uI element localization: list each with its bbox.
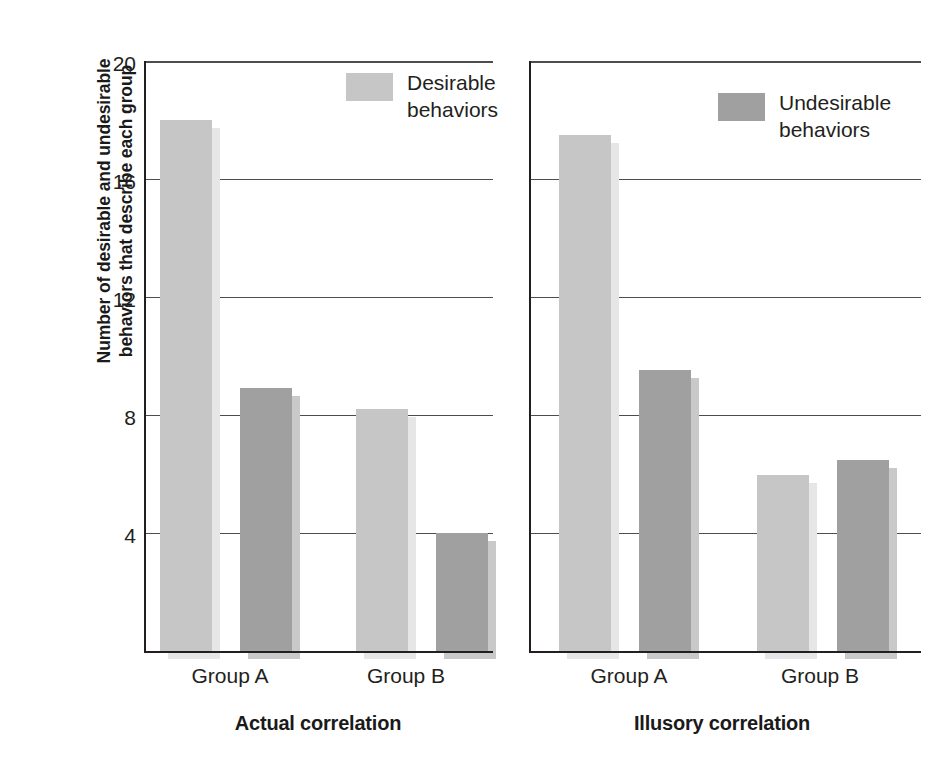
plot-area-right: [529, 61, 921, 653]
bar-face: [639, 370, 691, 651]
legend-desirable: Desirable behaviors: [346, 70, 498, 123]
y-tick-12: 12: [113, 289, 136, 310]
x-axis-line-right: [529, 651, 921, 653]
x-label-left-groupB: Group B: [367, 664, 445, 688]
x-label-right-groupB: Group B: [781, 664, 859, 688]
y-tick-16: 16: [113, 171, 136, 192]
bar-face: [356, 409, 408, 651]
bar-right-groupB-desirable: [757, 475, 809, 651]
x-label-left-groupA: Group A: [191, 664, 268, 688]
bar-right-groupA-undesirable: [639, 370, 691, 651]
legend-label-desirable: Desirable behaviors: [407, 70, 498, 123]
chart-figure: Number of desirable and undesirable beha…: [0, 0, 928, 779]
panel-title-actual-correlation: Actual correlation: [235, 712, 401, 735]
bar-right-groupB-undesirable: [837, 460, 889, 651]
y-axis-tick-labels: 20 16 12 8 4: [84, 0, 136, 779]
y-tick-4: 4: [124, 525, 136, 546]
gridline-20-left: [144, 61, 493, 63]
bar-left-groupB-desirable: [356, 409, 408, 651]
panel-actual-correlation: [144, 61, 493, 653]
plot-area-left: [144, 61, 493, 653]
bar-face: [436, 533, 488, 651]
legend-swatch-desirable-icon: [346, 73, 393, 101]
bar-face: [757, 475, 809, 651]
bar-face: [160, 120, 212, 651]
y-axis-line-right: [529, 61, 531, 653]
x-axis-line-left: [144, 651, 493, 653]
panel-illusory-correlation: [529, 61, 921, 653]
y-tick-8: 8: [124, 407, 136, 428]
legend-undesirable: Undesirable behaviors: [718, 90, 891, 143]
gridline-20-right: [529, 61, 921, 63]
y-axis-line-left: [144, 61, 146, 653]
bar-left-groupA-desirable: [160, 120, 212, 651]
legend-swatch-undesirable-icon: [718, 93, 765, 121]
bar-left-groupB-undesirable: [436, 533, 488, 651]
bar-face: [240, 388, 292, 651]
y-tick-20: 20: [113, 53, 136, 74]
x-label-right-groupA: Group A: [590, 664, 667, 688]
bar-face: [837, 460, 889, 651]
legend-label-undesirable: Undesirable behaviors: [779, 90, 891, 143]
panel-title-illusory-correlation: Illusory correlation: [634, 712, 810, 735]
bar-left-groupA-undesirable: [240, 388, 292, 651]
bar-face: [559, 135, 611, 651]
bar-right-groupA-desirable: [559, 135, 611, 651]
